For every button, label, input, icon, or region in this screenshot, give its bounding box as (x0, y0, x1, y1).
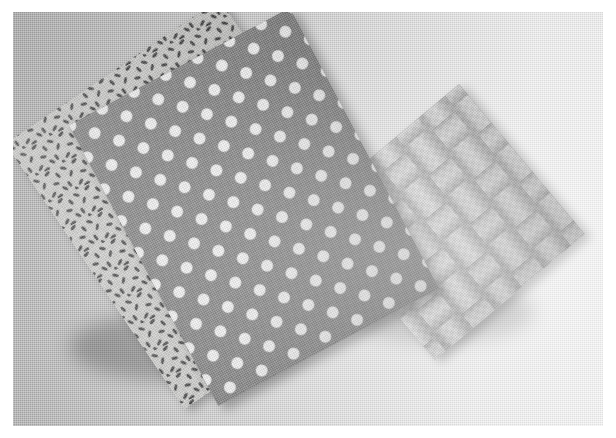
photo-vignette (13, 12, 603, 426)
photo-frame (0, 0, 616, 438)
photograph (13, 12, 603, 426)
